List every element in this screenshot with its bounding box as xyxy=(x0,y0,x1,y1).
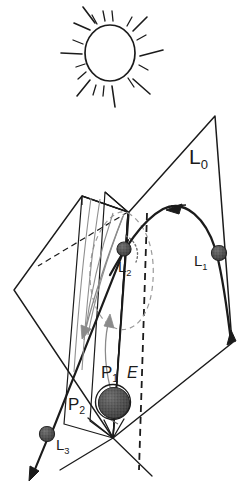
label-E: E xyxy=(127,365,138,381)
label-L2: L2 xyxy=(118,259,132,278)
label-P2-sub: 2 xyxy=(79,404,85,416)
label-L1-sub: 1 xyxy=(202,262,207,272)
diagram-canvas xyxy=(0,0,249,495)
ascending-gray-arrow xyxy=(106,324,113,398)
label-L0: L0 xyxy=(189,146,208,171)
label-L0-base: L xyxy=(189,145,201,168)
label-P1-sub: 1 xyxy=(112,372,118,384)
sun-long-rays xyxy=(61,7,163,107)
label-P1-base: P xyxy=(101,363,112,382)
arc-apex-arrow-tick xyxy=(171,205,186,206)
label-L0-sub: 0 xyxy=(201,157,208,172)
label-P1: P1 xyxy=(101,364,118,384)
body-L3-shade xyxy=(40,427,55,442)
label-L3: L3 xyxy=(56,437,70,456)
L3-exit-arrowhead xyxy=(29,466,39,481)
label-E-base: E xyxy=(127,364,138,381)
sun-group xyxy=(61,7,163,107)
body-L1-shade xyxy=(212,246,227,261)
label-L1: L1 xyxy=(194,253,208,272)
body-earth-shade xyxy=(99,388,130,419)
label-L2-sub: 2 xyxy=(126,268,131,278)
body-L2-shade xyxy=(117,242,131,256)
arc-right-arrowhead xyxy=(227,330,236,345)
dashed-vertical-axis xyxy=(139,213,147,470)
label-P2: P2 xyxy=(68,396,85,416)
ascending-gray-arrowhead xyxy=(104,314,114,328)
sun-disc xyxy=(85,25,135,81)
label-P2-base: P xyxy=(68,395,79,414)
orbital-diagram-figure: L0 L1 L2 L3 P1 P2 E xyxy=(0,0,249,495)
label-L3-sub: 3 xyxy=(64,446,69,456)
